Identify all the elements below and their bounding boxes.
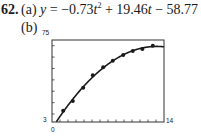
plot-frame [52,40,164,122]
data-point [131,49,135,53]
data-point [61,109,65,113]
fit-curve [56,46,164,121]
data-point [151,44,155,48]
data-point [81,86,85,90]
scatter-plot [0,0,201,137]
data-point [91,73,95,77]
data-point [111,59,115,63]
data-point [121,53,125,57]
data-point [140,47,144,51]
data-point [101,65,105,69]
data-point [71,99,75,103]
